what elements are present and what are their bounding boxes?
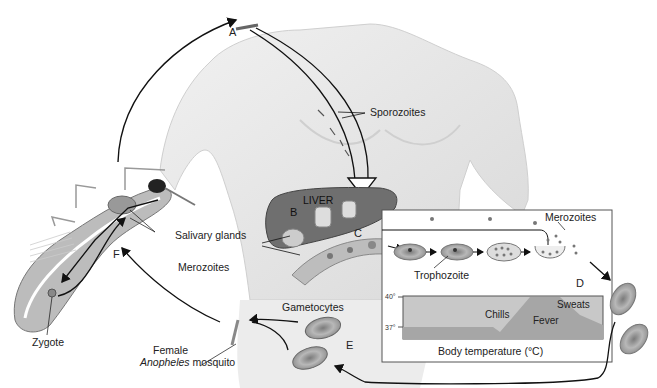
merozoites-blood-label: Merozoites (545, 212, 596, 223)
mosquito-on-skin-icon (236, 25, 258, 29)
sporozoites-label: Sporozoites (370, 107, 425, 118)
mosquito-on-skin-icon (232, 320, 238, 345)
species-name: Anopheles (140, 356, 190, 368)
liver-label: LIVER (303, 195, 333, 206)
stage-f-label: F (113, 249, 120, 260)
phase-sweats: Sweats (557, 300, 590, 310)
female-label: Female (153, 345, 188, 356)
salivary-glands-label: Salivary glands (175, 230, 246, 241)
chart-title: Body temperature (°C) (438, 346, 543, 357)
stage-e-label: E (346, 340, 353, 351)
red-blood-cell (615, 319, 654, 359)
phase-chills: Chills (485, 310, 509, 320)
arrow-to-mosquito (122, 248, 220, 322)
gametocytes-label: Gametocytes (282, 302, 344, 313)
stage-a-label: A (229, 27, 236, 38)
merozoites-liver-label: Merozoites (178, 262, 229, 273)
stage-d-label: D (576, 278, 584, 289)
mosquito-species-label: Anopheles mosquito (140, 357, 235, 368)
mosquito-word: mosquito (193, 356, 236, 368)
y-tick-40: 40° (385, 293, 396, 300)
zygote-label: Zygote (32, 337, 64, 348)
trophozoite-label: Trophozoite (414, 270, 469, 281)
stage-b-label: B (290, 207, 297, 218)
phase-fever: Fever (533, 316, 559, 326)
stage-c-label: C (354, 228, 362, 239)
mosquito-illustration (14, 168, 195, 335)
y-tick-37: 37° (385, 324, 396, 331)
